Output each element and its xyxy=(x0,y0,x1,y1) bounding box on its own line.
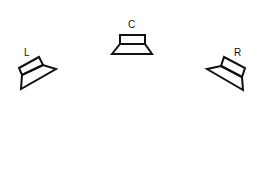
right-speaker-icon: R xyxy=(207,47,245,90)
center-speaker-icon: C xyxy=(112,19,152,54)
left-speaker-label: L xyxy=(24,47,30,58)
right-speaker-label: R xyxy=(234,47,241,58)
center-speaker-label: C xyxy=(128,19,135,30)
speaker-diagram: C L R xyxy=(0,0,260,182)
left-speaker-icon: L xyxy=(19,47,56,89)
